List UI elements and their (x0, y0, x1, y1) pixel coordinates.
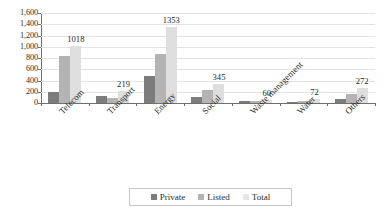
y-axis-tick-label: 800 (2, 54, 38, 62)
bar-group (136, 13, 184, 103)
legend-swatch-icon (151, 194, 157, 200)
data-label: 1018 (67, 35, 84, 44)
legend-item-total[interactable]: Total (243, 193, 270, 202)
y-axis-tick-mark (38, 92, 41, 93)
y-axis-tick-mark (38, 47, 41, 48)
y-axis-tick-label: 600 (2, 65, 38, 73)
bar (96, 96, 107, 103)
x-axis-tick-mark (41, 103, 42, 106)
bar (239, 101, 250, 103)
plot-area (41, 13, 375, 103)
x-axis-tick-mark (89, 103, 90, 106)
bar-group-bars (136, 13, 184, 103)
bar-group-bars (327, 13, 375, 103)
x-axis-tick-mark (232, 103, 233, 106)
legend-label: Listed (207, 193, 230, 202)
data-label: 1353 (163, 16, 180, 25)
y-axis-tick-mark (38, 36, 41, 37)
legend-label: Total (252, 193, 270, 202)
y-axis-tick-label: 400 (2, 77, 38, 85)
y-axis-tick-mark (38, 58, 41, 59)
legend-swatch-icon (198, 194, 204, 200)
y-axis-tick-mark (38, 69, 41, 70)
bar-group-bars (280, 13, 328, 103)
bar-group (327, 13, 375, 103)
bar-group-bars (184, 13, 232, 103)
legend-item-private[interactable]: Private (151, 193, 186, 202)
x-axis-tick-mark (327, 103, 328, 106)
y-axis-tick-mark (38, 13, 41, 14)
chart-legend: Private Listed Total (129, 188, 292, 206)
y-axis: 02004006008001,0001,2001,4001,600 (0, 0, 38, 219)
x-axis-tick-mark (184, 103, 185, 106)
bar (191, 97, 202, 103)
bar (287, 102, 298, 103)
legend-item-listed[interactable]: Listed (198, 193, 230, 202)
x-axis-tick-mark (280, 103, 281, 106)
bar-chart: 02004006008001,0001,2001,4001,600 Privat… (0, 0, 386, 219)
bar-group (184, 13, 232, 103)
legend-label: Private (160, 193, 186, 202)
y-axis-tick-label: 0 (2, 99, 38, 107)
legend-swatch-icon (243, 194, 249, 200)
y-axis-tick-label: 200 (2, 88, 38, 96)
x-axis-tick-mark (375, 103, 376, 106)
y-axis-tick-label: 1,400 (2, 20, 38, 28)
y-axis-tick-label: 1,000 (2, 43, 38, 51)
y-axis-tick-label: 1,200 (2, 32, 38, 40)
data-label: 272 (356, 77, 369, 86)
bar (144, 76, 155, 103)
bar (48, 92, 59, 103)
data-label: 345 (213, 73, 226, 82)
y-axis-tick-mark (38, 81, 41, 82)
y-axis-tick-mark (38, 24, 41, 25)
bar (335, 99, 346, 103)
x-axis-tick-mark (136, 103, 137, 106)
bar-group (280, 13, 328, 103)
y-axis-tick-label: 1,600 (2, 9, 38, 17)
